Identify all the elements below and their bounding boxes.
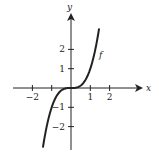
y-tick-label: 2 [59,44,65,54]
y-axis-label: y [66,2,73,12]
cubic-function-graph: −212 −2−112 x y f [0,0,159,156]
x-tick-label: 1 [87,92,93,102]
x-tick-label: −2 [26,92,39,102]
x-axis-label: x [146,83,151,93]
y-tick-label: 1 [59,64,65,74]
function-label: f [98,50,104,60]
x-tick-label: 2 [107,92,113,102]
y-tick-label: −2 [52,122,65,132]
